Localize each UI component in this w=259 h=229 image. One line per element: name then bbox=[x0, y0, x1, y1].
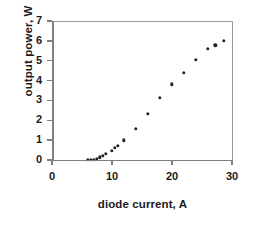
x-tick-mark bbox=[231, 160, 233, 165]
x-tick-label: 10 bbox=[97, 170, 127, 182]
y-axis-label: output power, W bbox=[22, 6, 34, 97]
x-axis-ticks: 0102030 bbox=[0, 0, 259, 229]
x-tick-label: 0 bbox=[37, 170, 67, 182]
x-axis-label: diode current, A bbox=[52, 198, 233, 210]
x-tick-mark bbox=[171, 160, 173, 165]
scatter-chart-figure: 01234567 0102030 output power, W diode c… bbox=[0, 0, 259, 229]
x-tick-label: 20 bbox=[157, 170, 187, 182]
x-tick-mark bbox=[51, 160, 53, 165]
y-axis-label-wrapper: output power, W bbox=[19, 0, 37, 131]
x-tick-mark bbox=[111, 160, 113, 165]
x-tick-label: 30 bbox=[217, 170, 247, 182]
